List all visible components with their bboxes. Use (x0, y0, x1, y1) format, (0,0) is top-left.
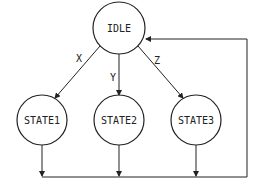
edge-label-y: Y (110, 72, 116, 83)
node-state3-label: STATE3 (178, 115, 214, 126)
node-state1: STATE1 (17, 95, 67, 145)
edge-label-z: Z (154, 55, 160, 66)
edge-idle-to-state1: X (55, 46, 100, 98)
node-state1-label: STATE1 (24, 115, 60, 126)
node-idle: IDLE (93, 2, 145, 54)
node-state2: STATE2 (94, 95, 144, 145)
node-state3: STATE3 (171, 95, 221, 145)
return-path (42, 39, 247, 177)
edge-label-x: X (76, 53, 82, 64)
state-diagram: IDLE STATE1 STATE2 STATE3 X Y Z (0, 0, 260, 187)
node-state2-label: STATE2 (101, 115, 137, 126)
node-idle-label: IDLE (107, 23, 131, 34)
edge-idle-to-state2: Y (110, 54, 119, 95)
edge-idle-to-state3: Z (138, 46, 183, 98)
